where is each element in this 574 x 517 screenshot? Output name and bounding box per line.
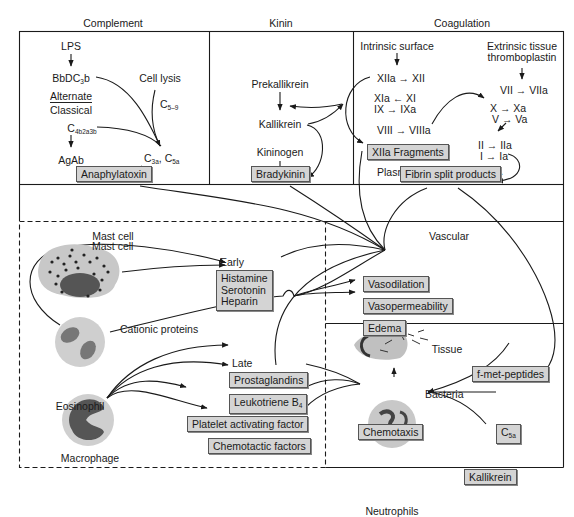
- alternate-label: Alternate: [50, 90, 92, 103]
- chemotaxis-box: Chemotaxis: [358, 424, 423, 440]
- section-complement: Complement: [83, 17, 143, 29]
- c5a-box: C5a: [496, 424, 521, 444]
- vasopermeability-box: Vasopermeability: [363, 298, 453, 314]
- macrophage-label: Macrophage: [61, 452, 119, 464]
- c5-9-label: C5–9: [160, 98, 178, 114]
- early-mediators-box: Histamine Serotonin Heparin: [216, 270, 273, 311]
- chemotactic-factors-box: Chemotactic factors: [208, 438, 311, 454]
- fibrin-split-products-box: Fibrin split products: [400, 166, 501, 182]
- f-met-peptides-box: f-met-peptides: [472, 366, 549, 382]
- intrinsic-surface-label: Intrinsic surface: [360, 40, 434, 52]
- prostaglandins-box: Prostaglandins: [229, 372, 308, 388]
- histamine-label: Histamine: [221, 273, 268, 285]
- kallikrein-box: Kallikrein: [464, 469, 517, 485]
- xiia-xii-label: XIIa → XII: [377, 72, 425, 84]
- lps-label: LPS: [61, 40, 81, 52]
- classical-label: Classical: [50, 104, 92, 116]
- i-ia-label: I → Ia: [480, 150, 508, 162]
- late-label: Late: [232, 357, 252, 369]
- mast-cell-label: Mast cell: [92, 240, 133, 252]
- vasodilation-box: Vasodilation: [363, 276, 429, 292]
- platelet-activating-factor-box: Platelet activating factor: [187, 416, 308, 432]
- early-label: Early: [220, 256, 244, 268]
- xiia-fragments-box: XIIa Fragments: [367, 144, 449, 160]
- section-kinin: Kinin: [269, 17, 292, 29]
- viii-viiia-label: VIII → VIIIa: [377, 124, 431, 136]
- kallikrein-label: Kallikrein: [259, 118, 302, 130]
- section-vascular: Vascular: [429, 230, 469, 242]
- edema-box: Edema: [363, 320, 406, 336]
- c4b2a3b-label: C4b2a3b: [67, 122, 96, 138]
- prekallikrein-label: Prekallikrein: [251, 78, 308, 90]
- leukotriene-b4-box: Leukotriene B4: [229, 394, 307, 414]
- eosinophil-illustration: [55, 317, 105, 367]
- cell-lysis-label: Cell lysis: [139, 72, 180, 84]
- heparin-label: Heparin: [221, 296, 268, 308]
- section-coagulation: Coagulation: [434, 17, 490, 29]
- thromboplastin-label: thromboplastin: [488, 51, 557, 63]
- bacteria-label: Bacteria: [425, 388, 464, 400]
- section-tissue: Tissue: [432, 343, 463, 355]
- eosinophil-label: Eosinophil: [56, 400, 104, 412]
- v-va-label: V → Va: [492, 113, 527, 125]
- anaphylatoxin-box: Anaphylatoxin: [76, 166, 152, 182]
- cationic-proteins-label: Cationic proteins: [120, 323, 198, 335]
- bbdc3b-label: BbDC3b: [52, 72, 89, 88]
- agab-label: AgAb: [58, 154, 84, 166]
- mast-cell-illustration: [38, 244, 119, 298]
- kininogen-label: Kininogen: [257, 146, 304, 158]
- neutrophils-label: Neutrophils: [365, 505, 418, 517]
- vii-viia-label: VII → VIIa: [500, 84, 548, 96]
- bradykinin-box: Bradykinin: [251, 166, 310, 182]
- ix-ixa-label: IX → IXa: [374, 103, 416, 115]
